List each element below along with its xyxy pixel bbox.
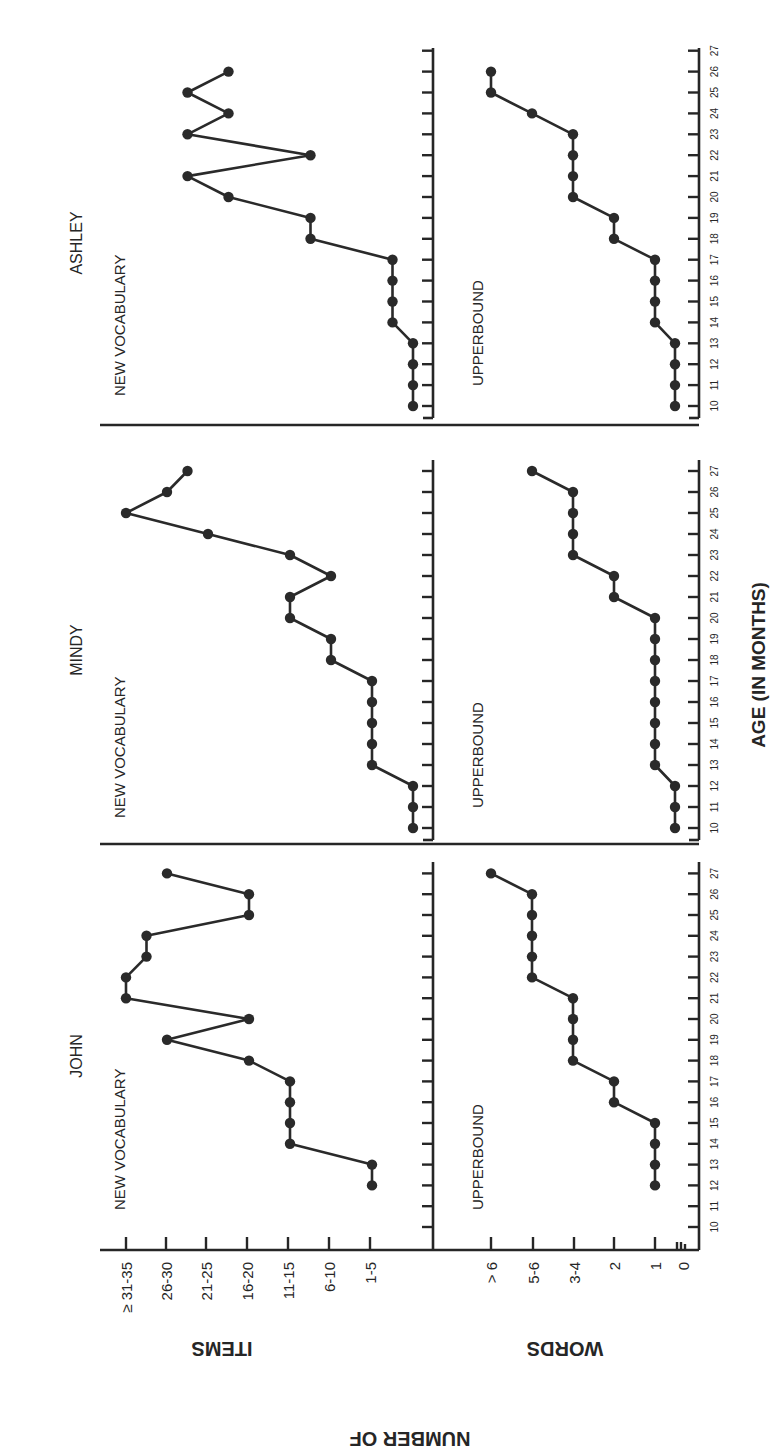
age-tick-label: 20	[709, 1013, 720, 1025]
age-tick-label: 25	[709, 87, 720, 99]
data-point	[609, 213, 619, 223]
data-point	[486, 66, 496, 76]
age-tick-label: 13	[709, 759, 720, 771]
data-point	[670, 338, 680, 348]
data-point	[568, 508, 578, 518]
age-tick-label: 14	[709, 738, 720, 750]
age-tick-label: 13	[709, 1159, 720, 1171]
data-point	[244, 889, 254, 899]
data-point	[408, 338, 418, 348]
age-tick-label: 19	[709, 633, 720, 645]
child-name-label: MINDY	[68, 624, 85, 676]
age-tick-label: 23	[709, 951, 720, 963]
data-point	[182, 129, 192, 139]
data-point	[121, 972, 131, 982]
words-tick-label: 0	[675, 1262, 692, 1270]
data-point	[568, 171, 578, 181]
age-tick-label: 26	[709, 66, 720, 78]
data-point	[670, 781, 680, 791]
series-label-new-vocabulary: NEW VOCABULARY	[111, 1069, 128, 1210]
age-tick-label: 10	[709, 1221, 720, 1233]
items-tick-label: ≥ 31-35	[118, 1262, 135, 1313]
data-point	[650, 1159, 660, 1169]
upperbound-line	[532, 471, 675, 828]
data-point	[244, 1014, 254, 1024]
data-point	[527, 951, 537, 961]
data-point	[650, 634, 660, 644]
series-label-upperbound: UPPERBOUND	[469, 702, 486, 808]
vocabulary-chart: 101112131415161718192021222324252627JOHN…	[0, 0, 779, 1449]
age-tick-label: 18	[709, 654, 720, 666]
age-tick-label: 18	[709, 233, 720, 245]
age-tick-label: 19	[709, 1034, 720, 1046]
data-point	[387, 275, 397, 285]
data-point	[121, 993, 131, 1003]
age-tick-label: 22	[709, 149, 720, 161]
data-point	[650, 317, 660, 327]
data-point	[162, 487, 172, 497]
age-tick-label: 14	[709, 316, 720, 328]
data-point	[486, 868, 496, 878]
age-tick-label: 10	[709, 822, 720, 834]
data-point	[650, 739, 660, 749]
data-point	[408, 823, 418, 833]
age-tick-label: 20	[709, 191, 720, 203]
data-point	[285, 613, 295, 623]
upperbound-line	[491, 72, 675, 406]
data-point	[326, 655, 336, 665]
age-tick-label: 24	[709, 528, 720, 540]
words-tick-label: > 6	[483, 1262, 500, 1283]
age-tick-label: 10	[709, 400, 720, 412]
age-tick-label: 11	[709, 379, 720, 390]
new-vocabulary-line	[126, 471, 413, 828]
data-point	[527, 972, 537, 982]
items-tick-label: 6-10	[321, 1262, 338, 1292]
data-point	[650, 760, 660, 770]
data-point	[408, 781, 418, 791]
data-point	[367, 697, 377, 707]
words-tick-label: 3-4	[566, 1262, 583, 1284]
age-tick-label: 17	[709, 675, 720, 687]
age-tick-label: 11	[709, 1201, 720, 1212]
data-point	[305, 234, 315, 244]
items-tick-label: 26-30	[158, 1262, 175, 1300]
y-axis-title-words: WORDS	[527, 1338, 604, 1360]
data-point	[670, 380, 680, 390]
data-point	[285, 592, 295, 602]
data-point	[650, 1180, 660, 1190]
data-point	[244, 1055, 254, 1065]
age-tick-label: 16	[709, 275, 720, 287]
data-point	[527, 466, 537, 476]
items-tick-label: 11-15	[280, 1262, 297, 1299]
data-point	[387, 296, 397, 306]
words-tick-labels: 0123-45-6> 6	[483, 1262, 692, 1284]
data-point	[367, 676, 377, 686]
items-tick-label: 16-20	[239, 1262, 256, 1300]
data-point	[285, 550, 295, 560]
data-point	[670, 401, 680, 411]
data-point	[650, 1139, 660, 1149]
data-point	[650, 296, 660, 306]
age-tick-label: 27	[709, 867, 720, 879]
data-point	[527, 910, 537, 920]
data-point	[568, 1035, 578, 1045]
data-point	[609, 592, 619, 602]
age-tick-label: 25	[709, 909, 720, 921]
words-tick-label: 2	[606, 1262, 623, 1270]
child-name-label: ASHLEY	[68, 211, 85, 274]
age-tick-label: 16	[709, 1096, 720, 1108]
new-vocabulary-line	[126, 873, 372, 1185]
panel-mindy: 101112131415161718192021222324252627MIND…	[68, 425, 720, 840]
data-point	[568, 993, 578, 1003]
age-tick-label: 12	[709, 780, 720, 792]
age-tick-label: 21	[709, 591, 720, 603]
words-tick-label: 5-6	[525, 1262, 542, 1284]
data-point	[121, 508, 131, 518]
age-tick-label: 17	[709, 254, 720, 266]
upperbound-line	[491, 873, 655, 1185]
age-tick-label: 15	[709, 296, 720, 308]
age-tick-label: 25	[709, 507, 720, 519]
y-axis-title-items: ITEMS	[191, 1338, 252, 1360]
age-tick-label: 23	[709, 549, 720, 561]
data-point	[367, 1159, 377, 1169]
